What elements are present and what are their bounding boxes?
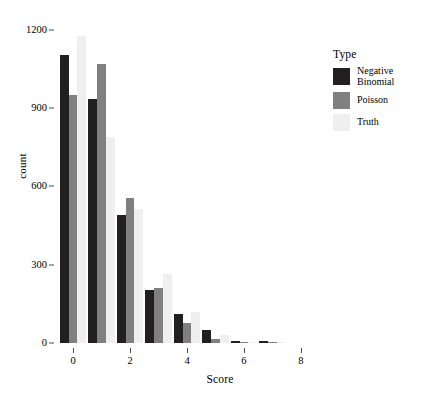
- bar: [126, 198, 135, 343]
- bar: [60, 55, 69, 343]
- legend-item-negative-binomial[interactable]: Negative Binomial: [333, 66, 419, 87]
- x-axis-title: Score: [0, 373, 440, 385]
- bar: [191, 312, 200, 343]
- x-tick-mark: [187, 348, 188, 353]
- x-tick-label: 2: [115, 355, 145, 366]
- bar-chart-figure: count 03006009001200 02468 Score Type Ne…: [0, 0, 440, 395]
- bar: [88, 99, 97, 343]
- x-tick-mark: [244, 348, 245, 353]
- legend-item-truth[interactable]: Truth: [333, 114, 419, 131]
- x-tick-mark: [301, 348, 302, 353]
- legend-title: Type: [333, 48, 419, 60]
- bar: [145, 290, 154, 344]
- y-tick-mark: [49, 343, 54, 344]
- bar: [134, 209, 143, 343]
- legend-swatch-icon: [333, 92, 350, 109]
- legend-swatch-icon: [333, 114, 350, 131]
- bar: [77, 36, 86, 343]
- y-tick-label: 0: [1, 338, 47, 348]
- legend-item-poisson[interactable]: Poisson: [333, 92, 419, 109]
- legend-label: Poisson: [357, 95, 388, 106]
- bar: [117, 215, 126, 343]
- bar: [277, 342, 286, 343]
- legend-swatch-icon: [333, 68, 350, 85]
- bar: [268, 342, 277, 343]
- bar: [174, 314, 183, 343]
- bar: [202, 330, 211, 343]
- bar: [183, 323, 192, 343]
- bar: [248, 342, 257, 343]
- plot-area: [56, 18, 318, 343]
- y-tick-label: 1200: [1, 25, 47, 35]
- legend: Type Negative BinomialPoissonTruth: [333, 48, 419, 136]
- y-tick-label: 600: [1, 181, 47, 191]
- y-tick-mark: [49, 29, 54, 30]
- bar: [220, 335, 229, 343]
- y-tick-mark: [49, 264, 54, 265]
- x-tick-label: 4: [172, 355, 202, 366]
- bar: [69, 95, 78, 343]
- legend-items: Negative BinomialPoissonTruth: [333, 66, 419, 131]
- bar: [163, 274, 172, 343]
- y-tick-mark: [49, 186, 54, 187]
- legend-label: Truth: [357, 117, 379, 128]
- bar: [97, 64, 106, 343]
- y-axis-title: count: [16, 126, 28, 206]
- x-tick-mark: [73, 348, 74, 353]
- bar: [211, 339, 220, 343]
- x-tick-label: 6: [229, 355, 259, 366]
- x-tick-label: 8: [286, 355, 316, 366]
- bar: [154, 288, 163, 343]
- legend-label: Negative Binomial: [357, 66, 419, 87]
- y-tick-label: 900: [1, 103, 47, 113]
- y-tick-label: 300: [1, 260, 47, 270]
- bar: [240, 342, 249, 343]
- bar: [231, 341, 240, 343]
- x-tick-mark: [130, 348, 131, 353]
- bar: [259, 341, 268, 343]
- bar: [106, 137, 115, 343]
- x-tick-label: 0: [58, 355, 88, 366]
- y-tick-mark: [49, 108, 54, 109]
